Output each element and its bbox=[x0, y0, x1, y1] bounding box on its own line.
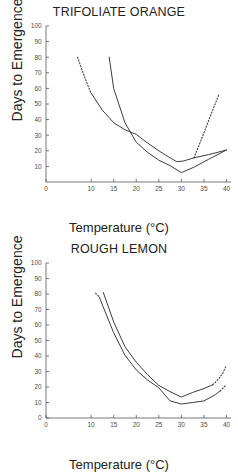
series-upper-curve-extension-right bbox=[194, 95, 219, 158]
x-axis-label: Temperature (°C) bbox=[0, 220, 238, 235]
x-tick-label: 20 bbox=[133, 185, 141, 192]
series-upper-curve-extension-right bbox=[213, 366, 226, 385]
y-tick-label: 40 bbox=[34, 352, 42, 359]
y-tick-label: 100 bbox=[31, 259, 42, 266]
y-tick-label: 20 bbox=[34, 147, 42, 154]
x-tick-label: 0 bbox=[44, 185, 48, 192]
y-tick-label: 80 bbox=[34, 54, 42, 61]
plot-area-trifoliate-orange: 102030405060708090100010152025303540 bbox=[0, 0, 238, 237]
x-tick-label: 25 bbox=[155, 185, 163, 192]
x-tick-label: 10 bbox=[88, 185, 96, 192]
y-tick-label: 50 bbox=[34, 337, 42, 344]
y-tick-label: 80 bbox=[34, 290, 42, 297]
y-tick-label: 0 bbox=[38, 414, 42, 421]
y-tick-label: 90 bbox=[34, 38, 42, 45]
panel-trifoliate-orange: TRIFOLIATE ORANGE Days to Emergence 1020… bbox=[0, 0, 238, 237]
x-tick-label: 30 bbox=[178, 421, 186, 428]
x-tick-label: 15 bbox=[110, 421, 118, 428]
x-axis-label: Temperature (°C) bbox=[0, 457, 238, 472]
y-tick-label: 40 bbox=[34, 116, 42, 123]
x-tick-label: 0 bbox=[44, 421, 48, 428]
x-tick-label: 35 bbox=[200, 421, 208, 428]
x-tick-label: 40 bbox=[223, 185, 231, 192]
y-tick-label: 20 bbox=[34, 383, 42, 390]
x-tick-label: 30 bbox=[178, 185, 186, 192]
series-lower-curve bbox=[109, 57, 226, 172]
y-tick-label: 60 bbox=[34, 321, 42, 328]
series-upper-curve-extension-left bbox=[78, 57, 92, 93]
x-tick-label: 20 bbox=[133, 421, 141, 428]
y-tick-label: 30 bbox=[34, 368, 42, 375]
x-tick-label: 40 bbox=[223, 421, 231, 428]
y-tick-label: 90 bbox=[34, 275, 42, 282]
y-tick-label: 10 bbox=[34, 163, 42, 170]
series-lower-curve-extension-right bbox=[220, 385, 226, 391]
x-tick-label: 10 bbox=[88, 421, 96, 428]
y-tick-label: 60 bbox=[34, 85, 42, 92]
series-lower-curve-extension-left bbox=[96, 293, 100, 297]
panel-rough-lemon: ROUGH LEMON Days to Emergence 0102030405… bbox=[0, 237, 238, 474]
y-tick-label: 100 bbox=[31, 22, 42, 29]
y-tick-label: 50 bbox=[34, 100, 42, 107]
plot-area-rough-lemon: 0102030405060708090100010152025303540 bbox=[0, 237, 238, 474]
y-tick-label: 10 bbox=[34, 399, 42, 406]
x-tick-label: 25 bbox=[155, 421, 163, 428]
series-lower-curve bbox=[99, 297, 220, 404]
y-tick-label: 30 bbox=[34, 132, 42, 139]
x-tick-label: 15 bbox=[110, 185, 118, 192]
x-tick-label: 35 bbox=[200, 185, 208, 192]
y-tick-label: 70 bbox=[34, 69, 42, 76]
y-tick-label: 70 bbox=[34, 306, 42, 313]
